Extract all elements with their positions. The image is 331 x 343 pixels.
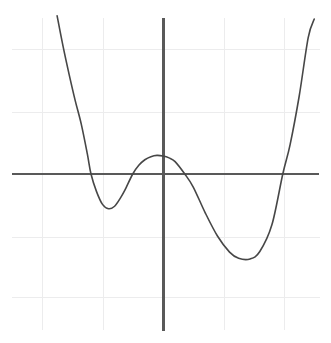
plot-canvas — [0, 0, 331, 343]
graph-figure — [0, 0, 331, 343]
plot-background — [0, 0, 331, 343]
